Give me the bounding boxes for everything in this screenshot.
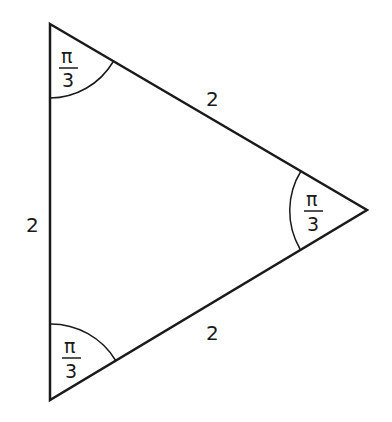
angle-arc-right bbox=[290, 171, 301, 249]
angle-label-right: π 3 bbox=[304, 188, 323, 235]
side-label-bottom-right: 2 bbox=[206, 321, 219, 345]
svg-text:3: 3 bbox=[62, 69, 74, 91]
svg-text:π: π bbox=[61, 45, 72, 67]
svg-text:3: 3 bbox=[65, 360, 77, 382]
svg-text:π: π bbox=[306, 188, 317, 210]
angle-label-bottom: π 3 bbox=[62, 335, 81, 382]
svg-text:π: π bbox=[64, 335, 75, 357]
angle-arc-bottom bbox=[50, 324, 116, 361]
svg-text:3: 3 bbox=[307, 213, 319, 235]
side-label-left: 2 bbox=[26, 213, 39, 237]
triangle-diagram: 2 2 2 π 3 π 3 π 3 bbox=[0, 0, 392, 422]
angle-label-top: π 3 bbox=[59, 45, 78, 91]
side-label-top-right: 2 bbox=[206, 87, 219, 111]
